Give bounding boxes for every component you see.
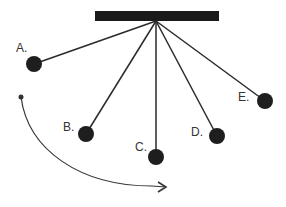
bob-a <box>26 56 42 72</box>
string-d <box>156 21 217 136</box>
bob-b <box>78 126 94 142</box>
bob-c <box>148 149 164 165</box>
support-bar <box>95 11 219 21</box>
pendulum-bobs <box>26 56 273 165</box>
pendulum-strings <box>34 21 265 157</box>
label-e: E. <box>238 91 249 103</box>
label-b: B. <box>63 121 74 133</box>
label-c: C. <box>135 141 147 153</box>
bob-d <box>209 128 225 144</box>
label-a: A. <box>16 42 27 54</box>
label-d: D. <box>191 126 203 138</box>
string-b <box>86 21 156 134</box>
string-a <box>34 21 156 64</box>
bob-e <box>257 93 273 109</box>
string-e <box>156 21 265 101</box>
